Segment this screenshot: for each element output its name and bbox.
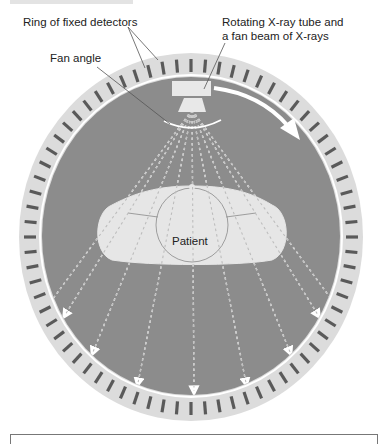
label-ring-of-fixed-detectors: Ring of fixed detectors [23,15,137,29]
caption-box [10,434,378,444]
label-fan-angle: Fan angle [50,51,101,65]
label-xray-tube-line2: a fan beam of X-rays [222,29,329,43]
label-patient: Patient [172,234,208,248]
label-xray-tube-line1: Rotating X-ray tube and [222,15,343,29]
